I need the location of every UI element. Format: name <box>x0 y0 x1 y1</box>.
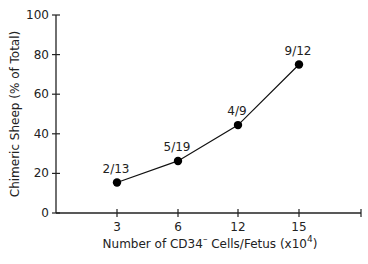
x-axis-title: Number of CD34– Cells/Fetus (x104) <box>103 234 318 251</box>
y-tick-label: 20 <box>34 166 49 180</box>
x-tick-label: 15 <box>291 220 306 234</box>
y-ticks: 020406080100 <box>26 8 60 220</box>
data-point-marker <box>295 60 303 68</box>
data-point-label: 9/12 <box>285 44 312 58</box>
y-tick-label: 100 <box>26 8 49 22</box>
y-tick-label: 0 <box>41 206 49 220</box>
y-tick-label: 80 <box>34 48 49 62</box>
data-point-marker <box>234 121 242 129</box>
x-tick-label: 12 <box>230 220 245 234</box>
data-point-label: 4/9 <box>227 104 246 118</box>
y-axis-title: Chimeric Sheep (% of Total) <box>8 31 22 197</box>
data-point-label: 2/13 <box>103 162 130 176</box>
data-point-marker <box>174 157 182 165</box>
y-tick-label: 40 <box>34 127 49 141</box>
chart: 020406080100 361215 2/135/194/99/12 Chim… <box>0 0 368 264</box>
x-tick-label: 6 <box>174 220 182 234</box>
data-point-marker <box>113 178 121 186</box>
data-point-label: 5/19 <box>164 140 191 154</box>
x-tick-label: 3 <box>113 220 121 234</box>
series-line <box>117 65 299 183</box>
y-tick-label: 60 <box>34 87 49 101</box>
data-points: 2/135/194/99/12 <box>103 44 312 187</box>
